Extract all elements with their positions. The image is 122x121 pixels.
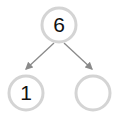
arrow-to-right-part — [64, 43, 92, 69]
number-bond-diagram: 6 1 — [0, 0, 122, 121]
whole-circle: 6 — [42, 8, 76, 42]
whole-value: 6 — [53, 13, 65, 36]
left-part-value: 1 — [20, 81, 32, 104]
arrow-to-left-part — [26, 43, 54, 69]
right-part-circle[interactable] — [76, 76, 110, 110]
left-part-circle: 1 — [9, 76, 43, 110]
